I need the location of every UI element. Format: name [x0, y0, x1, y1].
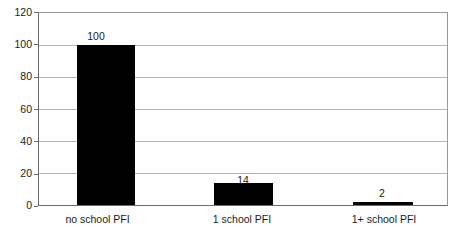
y-axis-label-40: 40	[0, 135, 32, 147]
bar-chart: 120 100 80 60 40 20 0 100 14 2 no school…	[0, 0, 464, 240]
y-axis-tick-0	[34, 206, 38, 207]
value-label-1-school-pfi: 14	[203, 174, 283, 186]
y-axis-label-20: 20	[0, 167, 32, 179]
value-label-no-school-pfi: 100	[56, 30, 136, 42]
value-label-1plus-school-pfi: 2	[342, 187, 422, 199]
x-axis-label-no-school-pfi: no school PFI	[45, 213, 150, 225]
bar-1plus-school-pfi	[353, 202, 413, 205]
y-axis-label-100: 100	[0, 38, 32, 50]
y-axis-label-80: 80	[0, 70, 32, 82]
x-axis-label-1-school-pfi: 1 school PFI	[192, 213, 292, 225]
y-axis-label-120: 120	[0, 6, 32, 18]
y-axis-label-0: 0	[0, 199, 32, 211]
bar-no-school-pfi	[77, 45, 135, 205]
y-axis-label-60: 60	[0, 103, 32, 115]
x-axis-label-1plus-school-pfi: 1+ school PFI	[331, 213, 437, 225]
